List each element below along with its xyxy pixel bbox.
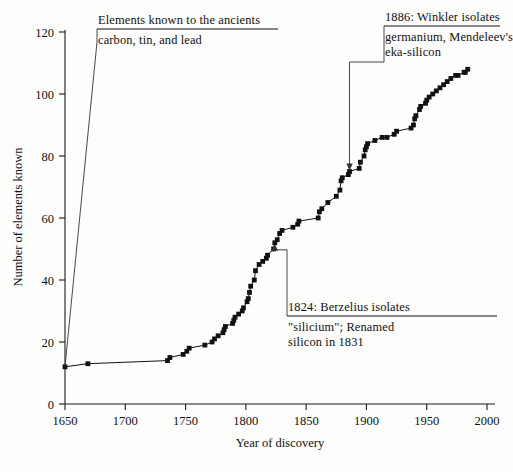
x-tick-label-1800: 1800: [233, 414, 258, 428]
data-point: [334, 194, 339, 199]
x-tick-label-1650: 1650: [53, 414, 78, 428]
data-point: [362, 154, 367, 159]
data-point: [86, 361, 91, 366]
data-point: [448, 76, 453, 81]
data-point: [380, 135, 385, 140]
data-point: [168, 355, 173, 360]
data-point: [202, 343, 207, 348]
data-point: [372, 138, 377, 143]
leader-line-berzelius: [275, 250, 287, 316]
annotation-berzelius-body-line1: "silicium"; Renamed: [288, 320, 394, 334]
y-tick-label-80: 80: [42, 150, 55, 164]
y-axis-title: Number of elements known: [11, 147, 25, 287]
annotation-winkler-head: 1886: Winkler isolates: [385, 10, 500, 25]
data-point: [253, 268, 258, 273]
data-point: [456, 73, 461, 78]
x-axis-title: Year of discovery: [236, 436, 325, 450]
chart-plot-area: 020406080100120 165017001750180018501900…: [0, 0, 513, 472]
y-axis-ticks: 020406080100120: [35, 26, 65, 412]
y-tick-label-20: 20: [42, 336, 55, 350]
x-tick-label-1750: 1750: [173, 414, 198, 428]
x-tick-label-2000: 2000: [475, 414, 500, 428]
data-point: [338, 188, 343, 193]
data-point: [241, 306, 246, 311]
data-point: [365, 141, 370, 146]
y-tick-label-100: 100: [35, 88, 54, 102]
data-point: [280, 228, 285, 233]
data-point: [216, 333, 221, 338]
data-point: [325, 200, 330, 205]
data-point: [413, 113, 418, 118]
y-tick-label-60: 60: [42, 212, 55, 226]
data-point: [297, 219, 302, 224]
data-point: [247, 290, 252, 295]
data-point: [319, 206, 324, 211]
annotation-berzelius-body: "silicium"; Renamed silicon in 1831: [288, 320, 394, 350]
annotation-berzelius-body-line2: silicon in 1831: [288, 335, 364, 349]
data-point: [394, 129, 399, 134]
data-point: [385, 135, 390, 140]
data-point: [357, 166, 362, 171]
x-axis-ticks: 16501700175018001850190019502000: [53, 404, 500, 428]
annotation-winkler-body: germanium, Mendeleev's eka-silicon: [385, 30, 513, 60]
annotation-winkler-body-line1: germanium, Mendeleev's: [385, 30, 513, 44]
data-point: [223, 324, 228, 329]
x-tick-label-1950: 1950: [414, 414, 439, 428]
data-point: [187, 346, 192, 351]
chart-figure: 020406080100120 165017001750180018501900…: [0, 0, 513, 472]
y-tick-label-0: 0: [48, 398, 54, 412]
data-point: [411, 123, 416, 128]
data-point: [340, 175, 345, 180]
annotation-ancients-body: carbon, tin, and lead: [98, 33, 202, 48]
x-tick-label-1900: 1900: [354, 414, 379, 428]
axis-group: [65, 30, 495, 404]
data-point: [465, 67, 470, 72]
annotation-rules: [97, 26, 500, 316]
data-point: [248, 284, 253, 289]
data-point: [290, 225, 295, 230]
data-series-line: [65, 69, 468, 367]
data-series-markers: [63, 67, 471, 369]
annotation-ancients-head: Elements known to the ancients: [98, 13, 260, 28]
annotation-winkler-body-line2: eka-silicon: [385, 45, 441, 59]
y-tick-label-40: 40: [42, 274, 55, 288]
data-point: [358, 160, 363, 165]
annotation-berzelius-head: 1824: Berzelius isolates: [288, 300, 410, 315]
x-tick-label-1700: 1700: [113, 414, 138, 428]
leader-line-ancients: [65, 29, 97, 367]
data-point: [246, 296, 251, 301]
data-point: [252, 278, 257, 283]
data-point: [418, 104, 423, 109]
data-point: [265, 253, 270, 258]
data-point: [316, 216, 321, 221]
x-tick-label-1850: 1850: [294, 414, 319, 428]
y-tick-label-120: 120: [35, 26, 54, 40]
data-point: [275, 237, 280, 242]
